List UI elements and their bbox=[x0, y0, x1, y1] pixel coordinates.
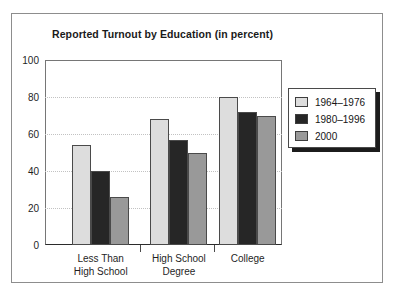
chart-figure: Reported Turnout by Education (in percen… bbox=[0, 0, 396, 296]
y-axis-tick-label: 0 bbox=[33, 240, 39, 251]
bar bbox=[91, 171, 110, 245]
y-axis-tick-label: 40 bbox=[28, 166, 39, 177]
chart-legend: 1964–19761980–19962000 bbox=[288, 88, 376, 148]
legend-item[interactable]: 2000 bbox=[295, 128, 375, 144]
legend-label: 1980–1996 bbox=[315, 114, 365, 125]
chart-title: Reported Turnout by Education (in percen… bbox=[52, 28, 332, 40]
bar bbox=[110, 197, 129, 245]
legend-item[interactable]: 1964–1976 bbox=[295, 94, 375, 110]
bars-layer bbox=[45, 60, 282, 245]
legend-label: 2000 bbox=[315, 131, 337, 142]
bar bbox=[169, 140, 188, 245]
bar bbox=[72, 145, 91, 245]
legend-swatch bbox=[295, 97, 308, 107]
y-axis-tick-label: 60 bbox=[28, 129, 39, 140]
bar bbox=[257, 116, 276, 246]
bar bbox=[188, 153, 207, 246]
x-axis-separator bbox=[140, 245, 141, 252]
y-axis-tick-label: 100 bbox=[22, 55, 39, 66]
bar-group bbox=[150, 60, 207, 245]
bar bbox=[238, 112, 257, 245]
plot-wrapper: 020406080100 Less ThanHigh SchoolHigh Sc… bbox=[45, 60, 282, 245]
bar bbox=[219, 97, 238, 245]
bar-group bbox=[72, 60, 129, 245]
x-axis-category-label: College bbox=[193, 252, 303, 265]
legend-swatch bbox=[295, 114, 308, 124]
x-axis-label-line: Degree bbox=[124, 265, 234, 278]
x-axis-label-line: College bbox=[193, 252, 303, 265]
bar-group bbox=[219, 60, 276, 245]
legend-swatch bbox=[295, 131, 308, 141]
legend-item[interactable]: 1980–1996 bbox=[295, 111, 375, 127]
bar bbox=[150, 119, 169, 245]
y-axis-tick-label: 80 bbox=[28, 92, 39, 103]
legend-label: 1964–1976 bbox=[315, 97, 365, 108]
y-axis-tick-label: 20 bbox=[28, 203, 39, 214]
x-axis-separator bbox=[214, 245, 215, 252]
